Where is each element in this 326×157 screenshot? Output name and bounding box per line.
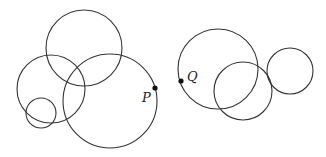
point-q-label: Q <box>187 69 198 84</box>
point-p-label: P <box>141 90 151 105</box>
point-q-dot <box>178 78 183 83</box>
right-circle-group: Q <box>178 29 313 120</box>
left-group-circle-1 <box>46 10 122 86</box>
left-circle-group: P <box>17 10 158 148</box>
left-group-circle-2 <box>17 55 85 123</box>
circles-diagram: P Q <box>0 0 326 157</box>
point-p-dot <box>152 85 157 90</box>
right-group-circle-3 <box>267 48 313 94</box>
left-group-circle-3 <box>26 98 56 128</box>
right-group-circle-2 <box>214 62 272 120</box>
